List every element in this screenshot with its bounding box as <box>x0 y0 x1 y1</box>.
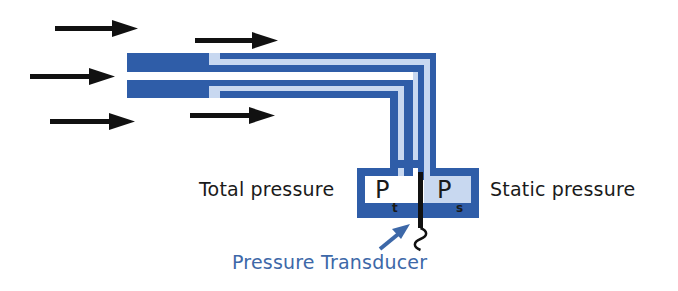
static-pressure-label: Static pressure <box>490 178 635 200</box>
total-pressure-chamber <box>365 176 418 203</box>
static-pressure-symbol: P <box>437 176 451 204</box>
total-pressure-label: Total pressure <box>199 178 334 200</box>
pressure-transducer-label: Pressure Transducer <box>232 251 427 273</box>
tube-nose-top <box>127 53 209 72</box>
total-pressure-symbol: P <box>375 176 389 204</box>
pitot-tube <box>127 53 436 168</box>
static-pressure-subscript: s <box>456 201 463 215</box>
pitot-static-diagram: Total pressure Static pressure Pressure … <box>0 0 678 291</box>
total-pressure-subscript: t <box>392 201 398 215</box>
flow-arrow-icon <box>195 32 278 49</box>
flow-arrow-icon <box>55 20 138 37</box>
flow-arrow-icon <box>190 107 275 124</box>
transducer-wire-icon <box>415 228 426 250</box>
flow-arrow-icon <box>50 113 135 130</box>
transducer-diaphragm <box>418 172 423 228</box>
flow-arrow-icon <box>30 68 115 85</box>
transducer-pointer-arrow-icon <box>380 224 410 249</box>
tube-nose-bottom <box>127 80 209 98</box>
